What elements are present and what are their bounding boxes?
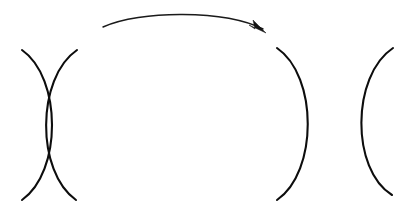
figure-background — [0, 0, 416, 211]
diagram-canvas — [0, 0, 416, 211]
curve-transformation-figure — [0, 0, 416, 211]
